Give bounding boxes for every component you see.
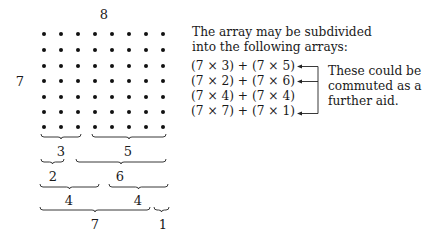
note-line-2: commuted as a	[328, 79, 422, 94]
note-line-3: further aid.	[328, 94, 399, 109]
arrowhead-icon	[297, 65, 302, 116]
note-line-1: These could be	[328, 64, 421, 79]
commute-arrows	[0, 0, 434, 240]
